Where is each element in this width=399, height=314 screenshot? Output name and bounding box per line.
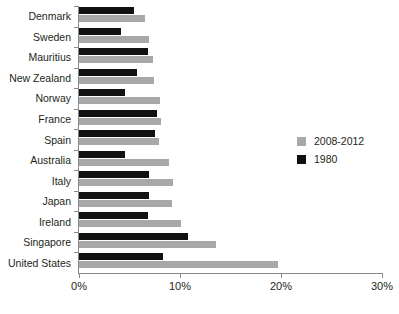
bar-1980: [79, 253, 163, 260]
legend-item[interactable]: 1980: [297, 151, 393, 167]
category-label: France: [0, 113, 71, 125]
category-tick: [74, 252, 78, 253]
category-tick: [74, 170, 78, 171]
category-tick: [74, 191, 78, 192]
value-tick: [180, 273, 181, 278]
category-label: Norway: [0, 92, 71, 104]
legend-item[interactable]: 2008-2012: [297, 133, 393, 149]
bar-1980: [79, 28, 121, 35]
value-tick-label: 10%: [169, 280, 191, 293]
bar-1980: [79, 233, 188, 240]
bar-2008-2012: [79, 15, 145, 22]
bar-group: [79, 232, 382, 253]
category-tick: [74, 27, 78, 28]
category-label: Japan: [0, 195, 71, 207]
bar-1980: [79, 212, 148, 219]
category-label: New Zealand: [0, 72, 71, 84]
bar-2008-2012: [79, 200, 172, 207]
category-label: United States: [0, 257, 71, 269]
bar-2008-2012: [79, 261, 278, 268]
legend-swatch-icon: [297, 137, 306, 146]
bar-group: [79, 47, 382, 68]
bar-chart: DenmarkSwedenMauritiusNew ZealandNorwayF…: [0, 0, 399, 314]
bar-2008-2012: [79, 118, 161, 125]
category-label: Australia: [0, 154, 71, 166]
bar-1980: [79, 7, 134, 14]
bar-group: [79, 6, 382, 27]
bar-1980: [79, 151, 125, 158]
value-tick: [382, 273, 383, 278]
category-tick: [74, 88, 78, 89]
bar-2008-2012: [79, 36, 149, 43]
category-tick: [74, 68, 78, 69]
bar-2008-2012: [79, 138, 159, 145]
bar-2008-2012: [79, 241, 216, 248]
category-label: Spain: [0, 134, 71, 146]
bar-group: [79, 88, 382, 109]
bar-2008-2012: [79, 77, 154, 84]
bar-1980: [79, 69, 137, 76]
category-tick: [74, 232, 78, 233]
category-tick: [74, 109, 78, 110]
category-tick: [74, 211, 78, 212]
bar-1980: [79, 171, 149, 178]
value-tick-label: 30%: [371, 280, 393, 293]
bar-group: [79, 68, 382, 89]
legend-label: 2008-2012: [314, 135, 364, 147]
category-tick: [74, 47, 78, 48]
bar-group: [79, 27, 382, 48]
bar-2008-2012: [79, 159, 169, 166]
chart-legend: 2008-20121980: [297, 133, 393, 169]
bar-1980: [79, 89, 125, 96]
category-label: Denmark: [0, 10, 71, 22]
bar-group: [79, 191, 382, 212]
bar-1980: [79, 110, 157, 117]
bar-2008-2012: [79, 179, 173, 186]
bar-group: [79, 109, 382, 130]
value-tick: [281, 273, 282, 278]
bar-1980: [79, 130, 155, 137]
category-tick: [74, 129, 78, 130]
value-tick-label: 20%: [270, 280, 292, 293]
bar-group: [79, 211, 382, 232]
legend-swatch-icon: [297, 155, 306, 164]
legend-label: 1980: [314, 153, 337, 165]
category-tick: [74, 6, 78, 7]
bar-2008-2012: [79, 220, 181, 227]
bar-group: [79, 252, 382, 273]
category-label: Mauritius: [0, 51, 71, 63]
value-tick: [79, 273, 80, 278]
value-tick-label: 0%: [71, 280, 87, 293]
category-label: Singapore: [0, 236, 71, 248]
bar-2008-2012: [79, 56, 153, 63]
category-label: Ireland: [0, 216, 71, 228]
bar-group: [79, 170, 382, 191]
baseline-axis-line: [78, 273, 382, 274]
bar-1980: [79, 48, 148, 55]
category-label: Sweden: [0, 31, 71, 43]
category-label: Italy: [0, 175, 71, 187]
category-axis: DenmarkSwedenMauritiusNew ZealandNorwayF…: [0, 6, 74, 273]
bar-1980: [79, 192, 149, 199]
category-tick: [74, 150, 78, 151]
bar-2008-2012: [79, 97, 160, 104]
